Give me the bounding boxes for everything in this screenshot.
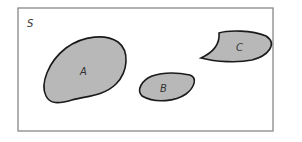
set-a-label: A bbox=[79, 66, 87, 77]
set-b-label: B bbox=[160, 83, 167, 94]
set-c-label: C bbox=[236, 42, 243, 53]
venn-diagram: S A B C bbox=[0, 0, 302, 142]
universe-label: S bbox=[27, 18, 34, 29]
